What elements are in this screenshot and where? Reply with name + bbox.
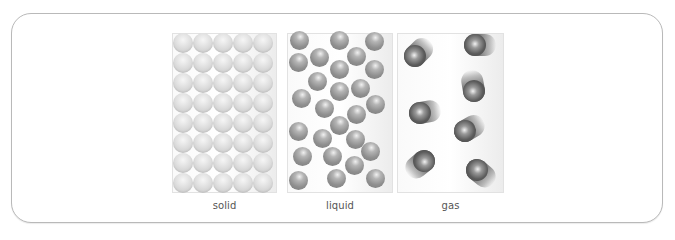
solid-particle [233, 73, 253, 93]
solid-particle [213, 33, 233, 53]
liquid-particle [290, 31, 309, 50]
liquid-particle [289, 122, 308, 141]
solid-particle [173, 133, 193, 153]
solid-particle [193, 113, 213, 133]
solid-particle [193, 153, 213, 173]
solid-particle [173, 73, 193, 93]
solid-particle [233, 113, 253, 133]
solid-particle [173, 153, 193, 173]
solid-particle [253, 133, 273, 153]
solid-particle [253, 53, 273, 73]
solid-particle [213, 73, 233, 93]
solid-particle [193, 133, 213, 153]
liquid-particle [327, 169, 346, 188]
solid-particle [233, 93, 253, 113]
liquid-label: liquid [287, 200, 393, 211]
solid-particle [213, 93, 233, 113]
solid-particle [213, 53, 233, 73]
solid-particle [173, 33, 193, 53]
solid-particle [233, 53, 253, 73]
liquid-particle [330, 31, 349, 50]
solid-particle [233, 133, 253, 153]
liquid-particle [315, 99, 334, 118]
liquid-particle [365, 32, 384, 51]
liquid-particle [308, 72, 327, 91]
solid-particle [253, 73, 273, 93]
liquid-particle [289, 171, 308, 190]
liquid-particle [313, 129, 332, 148]
solid-particle [193, 53, 213, 73]
solid-label: solid [172, 200, 277, 211]
solid-particle [193, 173, 213, 193]
solid-particle [173, 93, 193, 113]
liquid-particle [366, 169, 385, 188]
liquid-particle [345, 156, 364, 175]
solid-particle [233, 153, 253, 173]
liquid-particle [365, 60, 384, 79]
solid-particle [253, 93, 273, 113]
liquid-particle [330, 60, 349, 79]
solid-particle [253, 113, 273, 133]
liquid-particle [330, 82, 349, 101]
gas-label: gas [397, 200, 504, 211]
liquid-particle [366, 95, 385, 114]
liquid-particle [347, 105, 366, 124]
solid-particle [173, 113, 193, 133]
liquid-particle [310, 48, 329, 67]
liquid-particle [292, 89, 311, 108]
solid-particle [253, 33, 273, 53]
solid-particle [213, 133, 233, 153]
liquid-particle [293, 147, 312, 166]
solid-particle [213, 153, 233, 173]
solid-particle [233, 173, 253, 193]
solid-particle [213, 173, 233, 193]
solid-particle [253, 153, 273, 173]
solid-particle [193, 73, 213, 93]
solid-particle [233, 33, 253, 53]
gas-particle-head [464, 34, 486, 56]
solid-particle [173, 53, 193, 73]
liquid-particle [289, 53, 308, 72]
liquid-particle [330, 116, 349, 135]
solid-particle [253, 173, 273, 193]
liquid-particle [351, 79, 370, 98]
solid-particle [173, 173, 193, 193]
solid-particle [193, 33, 213, 53]
solid-particle [193, 93, 213, 113]
liquid-particle [347, 47, 366, 66]
liquid-particle [361, 142, 380, 161]
solid-particle [213, 113, 233, 133]
gas-particle [464, 34, 496, 56]
liquid-particle [323, 147, 342, 166]
